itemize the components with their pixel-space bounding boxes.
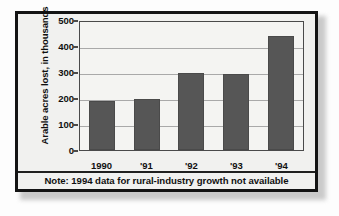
y-tick-label: 100: [48, 120, 74, 130]
chart-figure: Arable acres lost, in thousands 01002003…: [0, 0, 339, 216]
y-tick-label: 400: [48, 42, 74, 52]
plot-wrapper: 0100200300400500: [48, 21, 306, 159]
y-tick-label: 200: [48, 94, 74, 104]
x-axis-category-labels: 1990'91'92'93'94: [79, 160, 304, 171]
bar: [268, 36, 294, 150]
bar: [178, 73, 204, 150]
plot-area: [79, 21, 304, 151]
y-tick-mark: [73, 124, 78, 125]
x-tick-label: 1990: [82, 160, 122, 171]
y-tick-label: 300: [48, 68, 74, 78]
x-tick-label: '92: [172, 160, 212, 171]
x-tick-label: '93: [217, 160, 257, 171]
bar: [89, 101, 115, 150]
x-tick-label: '91: [127, 160, 167, 171]
note-divider: [18, 171, 315, 173]
y-axis-tick-labels: 0100200300400500: [48, 21, 74, 151]
x-tick-label: '94: [262, 160, 302, 171]
chart-panel: Arable acres lost, in thousands 01002003…: [15, 11, 318, 192]
chart-panel-inner: Arable acres lost, in thousands 01002003…: [18, 14, 315, 189]
bar: [134, 99, 160, 150]
bar-series: [80, 22, 303, 150]
y-tick-label: 0: [48, 146, 74, 156]
y-tick-mark: [73, 150, 78, 151]
y-tick-mark: [73, 20, 78, 21]
y-tick-mark: [73, 46, 78, 47]
bar: [223, 74, 249, 150]
y-tick-label: 500: [48, 16, 74, 26]
chart-note: Note: 1994 data for rural-industry growt…: [18, 175, 315, 186]
y-tick-mark: [73, 72, 78, 73]
y-tick-mark: [73, 98, 78, 99]
